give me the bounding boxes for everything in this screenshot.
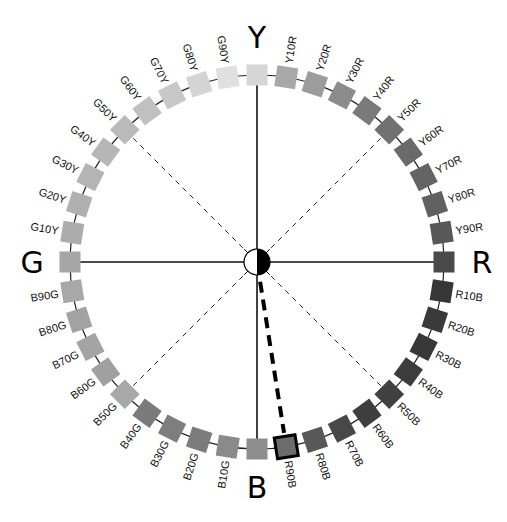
hue-label: G60Y — [118, 73, 145, 103]
hue-label: B90G — [30, 288, 60, 304]
hue-label: G30Y — [50, 153, 81, 177]
hue-label: R60B — [370, 421, 396, 450]
hue-swatch-y20r — [302, 71, 328, 97]
swatch-square — [434, 252, 455, 273]
hue-swatch-r — [434, 252, 455, 273]
swatch-square — [186, 427, 212, 453]
hue-swatch-g30y — [76, 163, 104, 191]
swatch-square — [76, 333, 104, 361]
swatch-square — [216, 435, 240, 459]
swatch-square — [247, 65, 268, 86]
hue-swatch-y10r — [274, 65, 298, 89]
hue-swatch-b20g — [186, 427, 212, 453]
highlight-line — [260, 282, 284, 433]
hue-label: G10Y — [30, 220, 60, 236]
hue-label: R30B — [434, 348, 464, 371]
hue-label: R50B — [395, 400, 423, 428]
hue-swatch-g80y — [186, 71, 212, 97]
swatch-square — [302, 427, 328, 453]
axis-letter-r: R — [472, 245, 493, 280]
hue-swatch-b80g — [66, 307, 92, 333]
hue-label: R10B — [455, 288, 484, 304]
axis-letter-g: G — [20, 245, 43, 280]
hue-label: Y20R — [313, 43, 333, 73]
hue-swatch-g70y — [158, 81, 186, 109]
swatch-square — [60, 252, 81, 273]
swatch-square — [158, 81, 186, 109]
hue-swatch-g90y — [216, 65, 240, 89]
center-tick-mark — [244, 249, 248, 253]
hue-label: G70Y — [148, 55, 172, 86]
center-tick-mark — [244, 271, 248, 275]
hue-label: B10G — [215, 460, 231, 490]
hue-label: Y60R — [416, 123, 445, 149]
hue-swatch-b10g — [216, 435, 240, 459]
swatch-square — [60, 221, 84, 245]
swatch-square — [430, 221, 454, 245]
hue-swatch-g10y — [60, 221, 84, 245]
swatch-square — [274, 65, 298, 89]
hue-label: R90B — [283, 460, 299, 489]
hue-swatch-g20y — [66, 191, 92, 217]
hue-label: Y90R — [455, 220, 484, 236]
hue-label: Y80R — [447, 186, 477, 206]
hue-label: R40B — [416, 375, 445, 401]
hue-swatch-r20b — [422, 307, 448, 333]
swatch-square — [302, 71, 328, 97]
dashed-diagonal-line — [130, 135, 242, 247]
center-disc-black-half — [257, 249, 270, 275]
swatch-square — [158, 414, 186, 442]
hue-label: B40G — [118, 421, 144, 451]
swatch-square — [76, 163, 104, 191]
hue-swatch-b90g — [60, 279, 84, 303]
hue-label: G50Y — [91, 96, 120, 125]
axis-letter-y: Y — [247, 20, 267, 55]
hue-swatch-b30g — [158, 414, 186, 442]
hue-swatch-r80b — [302, 427, 328, 453]
hue-label: G40Y — [68, 123, 98, 150]
highlight-dashed-line — [260, 282, 284, 433]
axis-letter-b: B — [247, 470, 268, 505]
dashed-diagonal-line — [130, 276, 242, 388]
hue-swatch-y90r — [430, 221, 454, 245]
swatch-square — [60, 279, 84, 303]
swatch-square — [422, 307, 448, 333]
swatch-square — [216, 65, 240, 89]
dashed-diagonal-line — [271, 276, 383, 388]
center-disc — [244, 249, 270, 275]
hue-label: B80G — [37, 318, 67, 338]
hue-label: B60G — [68, 375, 98, 401]
hue-label: Y70R — [434, 153, 464, 176]
hue-label: B50G — [91, 400, 119, 428]
hue-swatch-r10b — [430, 279, 454, 303]
ncs-colour-circle: Y10RY20RY30RY40RY50RY60RY70RY80RY90RR10B… — [0, 0, 507, 522]
hue-label: G20Y — [37, 186, 68, 206]
swatch-square — [274, 435, 298, 459]
swatch-square — [66, 191, 92, 217]
hue-label: Y30R — [343, 55, 366, 85]
hue-label: Y40R — [370, 73, 396, 102]
hue-swatch-g — [60, 252, 81, 273]
dashed-diagonal-line — [271, 135, 383, 247]
center-tick-mark — [266, 249, 270, 253]
hue-label: Y50R — [395, 96, 423, 124]
swatch-square — [186, 71, 212, 97]
swatch-square — [247, 439, 268, 460]
hue-swatch-r90b — [274, 435, 298, 459]
hue-label: B20G — [181, 451, 201, 481]
hue-label: G80Y — [181, 42, 201, 73]
hue-swatch-b — [247, 439, 268, 460]
swatch-square — [430, 279, 454, 303]
hue-label: R80B — [313, 452, 333, 482]
hue-swatch-b70g — [76, 333, 104, 361]
hue-label: R20B — [447, 318, 477, 338]
hue-label: B30G — [148, 438, 171, 469]
hue-label: Y10R — [283, 35, 299, 64]
hue-swatch-y80r — [422, 191, 448, 217]
swatch-square — [66, 307, 92, 333]
hue-label: R70B — [343, 439, 366, 469]
swatch-square — [422, 191, 448, 217]
hue-swatch-y — [247, 65, 268, 86]
hue-label: G90Y — [215, 35, 231, 65]
hue-label: B70G — [50, 348, 81, 371]
